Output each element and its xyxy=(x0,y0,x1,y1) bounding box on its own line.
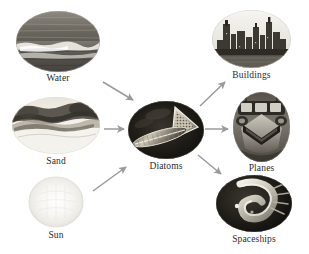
spacecraft-photo xyxy=(216,175,292,232)
node-label-sand: Sand xyxy=(46,157,66,167)
water-ocean-photo xyxy=(16,11,100,72)
node-sand[interactable]: Sand xyxy=(12,97,100,167)
node-diatoms[interactable]: Diatoms xyxy=(128,101,204,173)
node-sun[interactable]: Sun xyxy=(27,176,85,242)
node-water[interactable]: Water xyxy=(16,11,100,85)
diatom-flow-diagram: Water xyxy=(0,0,309,254)
node-label-buildings: Buildings xyxy=(232,71,270,81)
diatom-microscopy-photo xyxy=(128,101,204,159)
node-spaceships[interactable]: Spaceships xyxy=(216,175,292,247)
sand-dune-photo xyxy=(12,97,100,154)
arrow-sun-to-diatoms xyxy=(93,167,126,191)
node-label-diatoms: Diatoms xyxy=(149,162,182,172)
node-buildings[interactable]: Buildings xyxy=(212,10,291,82)
node-planes[interactable]: Planes xyxy=(233,92,290,176)
aircraft-front-photo xyxy=(233,92,290,162)
sun-glow-photo xyxy=(27,176,85,228)
node-label-planes: Planes xyxy=(249,164,275,174)
arrow-water-to-diatoms xyxy=(103,82,133,100)
city-skyline-photo xyxy=(212,10,291,68)
node-label-water: Water xyxy=(46,74,69,84)
node-label-spaceships: Spaceships xyxy=(232,235,276,245)
node-label-sun: Sun xyxy=(48,231,63,241)
